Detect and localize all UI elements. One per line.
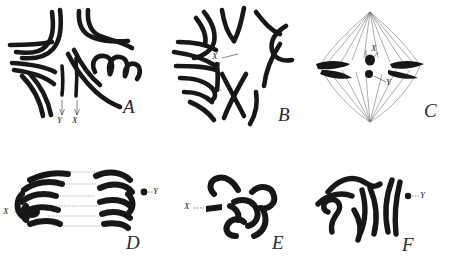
panel-a-drawing [0,0,160,135]
panel-c-label-y: Y [386,78,391,87]
y-chromosome-dot [141,189,148,196]
panel-b-label-x: X [212,52,218,61]
x-chromosome-rod [206,204,222,212]
panel-f-drawing [300,150,450,266]
y-chromosome-dot [405,193,411,199]
panel-e-drawing [160,150,310,266]
panel-f: Y F [300,150,450,266]
x-chromosome-body [365,55,375,66]
panel-d-letter: D [126,232,140,254]
panel-c: X Y C [300,0,450,135]
panel-d-label-y: Y [153,187,158,196]
panel-b-letter: B [278,104,290,126]
panel-e-label-x: X [184,202,190,211]
panel-f-label-y: Y [420,191,425,200]
panel-a: Y X A [0,0,160,135]
panel-c-letter: C [424,100,437,122]
panel-f-letter: F [402,234,414,256]
panel-a-label-y: Y [57,116,62,125]
panel-b: X B [160,0,310,135]
panel-e: X E [160,150,310,266]
panel-a-letter: A [123,96,135,118]
panel-a-leaders [60,100,80,115]
panel-c-label-x: X [371,44,377,53]
panel-d: X Y D [0,150,160,266]
figure-plate: Y X A [0,0,450,266]
panel-a-label-x: X [72,116,78,125]
panel-e-letter: E [272,232,284,254]
y-chromosome-body [365,70,373,78]
panel-d-label-x: X [3,207,9,216]
